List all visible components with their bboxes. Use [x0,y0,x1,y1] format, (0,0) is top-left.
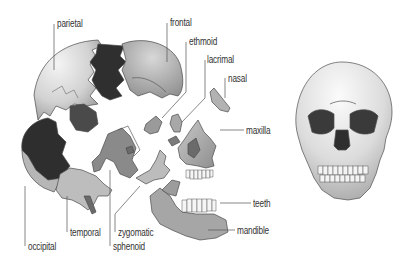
label-parietal: parietal [57,18,83,29]
upper-teeth [186,170,213,179]
right-orbit [350,110,378,134]
frontal-bone [122,41,183,98]
zygomatic-bone [136,150,170,184]
label-sphenoid: sphenoid [113,241,145,252]
ethmoid-bone [144,116,162,134]
label-zygomatic: zygomatic [118,227,153,238]
lower-teeth [182,199,216,212]
left-orbit [308,110,334,134]
label-nasal: nasal [228,73,247,84]
label-frontal: frontal [170,17,192,28]
sphenoid-inner-dark [90,44,126,100]
label-temporal: temporal [70,227,101,238]
nasal-bone [210,88,230,112]
label-lacrimal: lacrimal [207,54,234,65]
label-teeth: teeth [253,198,270,209]
exploded-skull [22,40,230,240]
lacrimal-bone [170,114,182,132]
label-occipital: occipital [28,241,56,252]
label-mandible: mandible [237,225,269,236]
front-teeth [318,166,368,182]
temporal-upper-fragment [70,104,98,132]
skull-diagram: parietal frontal ethmoid lacrimal nasal … [0,0,413,265]
nasal-cavity [334,130,350,150]
label-maxilla: maxilla [246,125,270,136]
temporal-bone [56,168,112,210]
label-ethmoid: ethmoid [189,36,217,47]
assembled-skull [296,62,392,200]
mandible-bone [150,188,228,240]
